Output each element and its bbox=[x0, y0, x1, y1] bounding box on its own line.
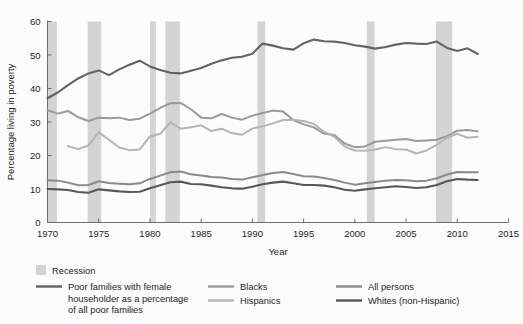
x-axis-tick-label: 1980 bbox=[139, 228, 160, 239]
x-axis-title: Year bbox=[268, 246, 287, 257]
recession-band bbox=[258, 22, 266, 223]
legend-label-poor_families_female_householder: of all poor families bbox=[68, 305, 143, 315]
y-axis-title: Percentage living in poverty bbox=[5, 63, 16, 180]
legend-swatch-recession bbox=[36, 265, 46, 275]
x-axis-tick-label: 1970 bbox=[37, 228, 58, 239]
recession-bands-group bbox=[48, 22, 453, 223]
legend-label-all_persons: All persons bbox=[368, 282, 414, 292]
chart-svg: 0102030405060197019751980198519901995200… bbox=[0, 0, 523, 324]
x-axis-tick-label: 2000 bbox=[344, 228, 365, 239]
recession-band bbox=[436, 22, 452, 223]
poverty-line-chart-figure: 0102030405060197019751980198519901995200… bbox=[0, 0, 523, 324]
legend-label-poor_families_female_householder: Poor families with female bbox=[68, 282, 171, 292]
y-axis-tick-label: 50 bbox=[30, 50, 41, 61]
legend-label-recession: Recession bbox=[52, 266, 95, 276]
legend-label-whites_non_hispanic: Whites (non-Hispanic) bbox=[368, 296, 459, 306]
y-axis-tick-label: 60 bbox=[30, 16, 41, 27]
x-axis-tick-label: 1975 bbox=[88, 228, 109, 239]
x-axis-tick-label: 1995 bbox=[293, 228, 314, 239]
y-axis-tick-label: 30 bbox=[30, 117, 41, 128]
x-axis-tick-label: 2005 bbox=[395, 228, 416, 239]
x-axis-tick-label: 2010 bbox=[447, 228, 468, 239]
recession-band bbox=[165, 22, 180, 223]
x-axis-tick-label: 1990 bbox=[242, 228, 263, 239]
legend-label-blacks: Blacks bbox=[240, 282, 268, 292]
y-axis-tick-label: 40 bbox=[30, 83, 41, 94]
legend-label-poor_families_female_householder: householder as a percentage bbox=[68, 294, 188, 304]
x-axis-tick-label: 2015 bbox=[498, 228, 519, 239]
y-axis-tick-label: 10 bbox=[30, 184, 41, 195]
legend-label-hispanics: Hispanics bbox=[240, 296, 281, 306]
chart-legend: RecessionPoor families with femalehouseh… bbox=[36, 265, 459, 315]
recession-band bbox=[367, 22, 375, 223]
series-line-hispanics bbox=[68, 120, 478, 154]
y-axis-tick-label: 20 bbox=[30, 150, 41, 161]
recession-band bbox=[150, 22, 156, 223]
y-axis-tick-label: 0 bbox=[35, 217, 40, 228]
x-axis-tick-label: 1985 bbox=[191, 228, 212, 239]
